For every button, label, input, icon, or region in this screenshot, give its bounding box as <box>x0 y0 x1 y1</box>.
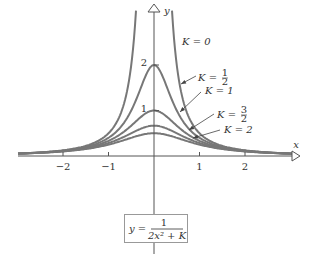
formula-lhs: y = <box>128 223 146 234</box>
formula-denominator: 2x² + K <box>147 230 187 241</box>
annotation-3: K = <box>216 109 236 120</box>
x-tick-label: −1 <box>101 161 116 172</box>
x-tick-label: −2 <box>56 161 71 172</box>
y-tick-label: 2 <box>141 57 147 68</box>
annotation-4: K = 2 <box>223 124 253 135</box>
svg-text:2: 2 <box>241 113 247 124</box>
annotation-0: K = 0 <box>181 36 211 47</box>
formula-numerator: 1 <box>161 217 167 228</box>
y-axis-label: y <box>163 5 170 16</box>
curve-k-0_5 <box>18 65 293 154</box>
formula-box: y = 1 2x² + K <box>124 214 188 243</box>
y-tick-label: 1 <box>141 103 147 114</box>
x-tick-label: 2 <box>242 161 248 172</box>
annotation-2: K = 1 <box>204 85 234 96</box>
x-axis-label: x <box>293 139 299 150</box>
y-axis-arrow-icon <box>148 4 160 12</box>
x-axis-arrow-icon <box>292 151 300 161</box>
annotation-1: K = <box>197 72 217 83</box>
x-tick-label: 1 <box>196 161 202 172</box>
arrow-icon <box>181 80 186 84</box>
